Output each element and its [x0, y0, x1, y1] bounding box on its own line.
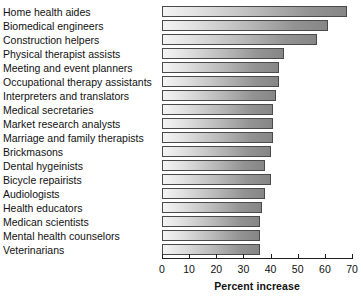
category-label: Market research analysts	[3, 117, 120, 131]
bar-row	[162, 173, 352, 187]
axis-tick	[325, 254, 326, 259]
bar	[162, 118, 273, 129]
category-label: Marriage and family therapists	[3, 131, 144, 145]
value-axis	[162, 258, 352, 261]
category-label: Physical therapist assists	[3, 47, 120, 61]
axis-tick	[216, 254, 217, 259]
bar	[162, 146, 271, 157]
category-label: Health educators	[3, 201, 82, 215]
bar-row	[162, 229, 352, 243]
category-label: Home health aides	[3, 5, 91, 19]
bar-row	[162, 159, 352, 173]
category-label: Construction helpers	[3, 33, 99, 47]
axis-tick-label: 30	[228, 263, 258, 275]
bar	[162, 90, 276, 101]
bar-row	[162, 131, 352, 145]
bar	[162, 6, 347, 17]
axis-tick-label: 20	[201, 263, 231, 275]
axis-tick	[162, 254, 163, 259]
category-label: Meeting and event planners	[3, 61, 133, 75]
bar	[162, 132, 273, 143]
bar-row	[162, 75, 352, 89]
bar-row	[162, 201, 352, 215]
bar-row	[162, 103, 352, 117]
bar	[162, 34, 317, 45]
bar-row	[162, 215, 352, 229]
bar-row	[162, 145, 352, 159]
bar	[162, 202, 262, 213]
category-label: Occupational therapy assistants	[3, 75, 152, 89]
bar	[162, 48, 284, 59]
axis-tick-label: 50	[283, 263, 313, 275]
category-label: Interpreters and translators	[3, 89, 129, 103]
bar	[162, 230, 260, 241]
axis-tick-label: 70	[337, 263, 363, 275]
category-label: Audiologists	[3, 187, 60, 201]
bar	[162, 62, 279, 73]
category-label: Biomedical engineers	[3, 19, 103, 33]
bar-row	[162, 19, 352, 33]
bar-row	[162, 33, 352, 47]
bar	[162, 20, 328, 31]
axis-tick	[352, 254, 353, 259]
bar-row	[162, 61, 352, 75]
category-axis: Home health aidesBiomedical engineersCon…	[0, 5, 159, 258]
bar	[162, 244, 260, 255]
category-label: Bicycle repairists	[3, 173, 82, 187]
bar	[162, 76, 279, 87]
axis-tick	[243, 254, 244, 259]
bar	[162, 216, 260, 227]
bar-row	[162, 187, 352, 201]
plot-area	[162, 5, 352, 258]
bar-row	[162, 5, 352, 19]
bar-row	[162, 117, 352, 131]
axis-tick-label: 0	[147, 263, 177, 275]
bar	[162, 174, 271, 185]
category-label: Brickmasons	[3, 145, 63, 159]
x-axis-title: Percent increase	[162, 280, 352, 292]
axis-tick	[298, 254, 299, 259]
axis-tick-label: 10	[174, 263, 204, 275]
category-label: Veterinarians	[3, 243, 64, 257]
axis-tick-label: 40	[256, 263, 286, 275]
bar-row	[162, 89, 352, 103]
bar-row	[162, 47, 352, 61]
axis-tick	[271, 254, 272, 259]
category-label: Medical secretaries	[3, 103, 93, 117]
category-label: Medican scientists	[3, 215, 89, 229]
bar	[162, 104, 273, 115]
axis-tick	[189, 254, 190, 259]
category-label: Dental hygeinists	[3, 159, 83, 173]
bar	[162, 160, 265, 171]
bar-row	[162, 243, 352, 257]
axis-tick-label: 60	[310, 263, 340, 275]
category-label: Mental health counselors	[3, 229, 120, 243]
bar	[162, 188, 265, 199]
